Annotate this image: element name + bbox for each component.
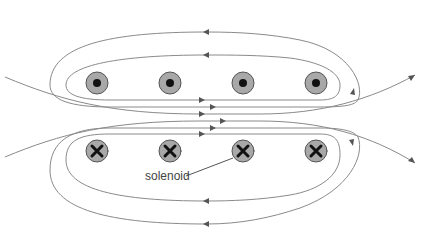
- arrow-left-icon: [203, 29, 209, 35]
- coil-out-of-page: [86, 72, 108, 94]
- coil-row-bottom: [86, 140, 327, 162]
- coil-out-of-page: [305, 72, 327, 94]
- coil-into-page: [86, 140, 108, 162]
- arrow-right-icon: [210, 125, 216, 131]
- arrow-right-icon: [199, 111, 205, 117]
- arrow-left-icon: [203, 52, 209, 58]
- arrow-right-icon: [210, 104, 216, 110]
- arrow-right-icon: [199, 131, 205, 137]
- arrow-up-icon: [350, 88, 355, 95]
- solenoid-field-diagram: [0, 0, 428, 230]
- arrow-left-icon: [203, 221, 209, 227]
- coil-into-page: [232, 140, 254, 162]
- solenoid-label: solenoid: [145, 169, 190, 183]
- coil-row-top: [86, 72, 327, 94]
- label-leader-line: [186, 158, 233, 176]
- arrow-se-icon: [408, 157, 415, 163]
- field-line-bottom-inner: [66, 134, 340, 201]
- coil-into-page: [159, 140, 181, 162]
- coil-out-of-page: [159, 72, 181, 94]
- arrow-right-icon: [220, 118, 226, 124]
- arrow-right-icon: [199, 97, 205, 103]
- arrow-left-icon: [203, 198, 209, 204]
- field-line-top-outer: [50, 32, 360, 107]
- coil-into-page: [305, 140, 327, 162]
- coil-out-of-page: [232, 72, 254, 94]
- arrow-down-icon: [349, 139, 354, 146]
- field-line-top-inner: [66, 55, 340, 100]
